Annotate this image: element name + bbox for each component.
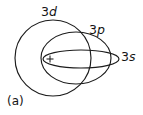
orbit-path-3d xyxy=(15,20,91,96)
orbit-label-3d-principal: 3 xyxy=(41,4,49,19)
orbit-path-3s xyxy=(43,50,119,68)
orbit-label-3p-principal: 3 xyxy=(89,22,97,37)
orbit-label-3s-subshell: s xyxy=(129,49,136,64)
orbit-label-3d: 3d xyxy=(41,6,57,19)
orbit-label-3s: 3s xyxy=(121,51,136,64)
orbit-path-3p xyxy=(41,32,111,84)
nucleus-plus-icon xyxy=(47,56,54,63)
panel-caption: (a) xyxy=(7,95,24,107)
orbit-label-3p-subshell: p xyxy=(97,22,105,37)
orbit-label-3s-principal: 3 xyxy=(121,49,129,64)
orbit-diagram-figure: 3d 3p 3s (a) xyxy=(0,0,143,115)
orbit-label-3d-subshell: d xyxy=(49,4,57,19)
orbit-label-3p: 3p xyxy=(89,24,105,37)
